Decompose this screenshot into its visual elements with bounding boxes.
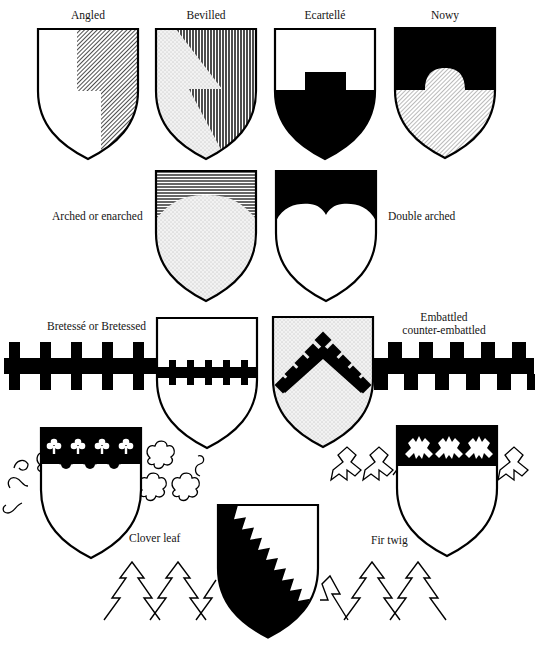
shield-clover-leaf bbox=[41, 428, 141, 558]
label-bevilled: Bevilled bbox=[176, 9, 236, 22]
embattled-band bbox=[374, 342, 535, 390]
label-bretesse: Bretessé or Bretessed bbox=[47, 320, 146, 333]
clover-leaf-outlines-right bbox=[139, 441, 204, 500]
shield-ecartelle bbox=[275, 29, 375, 159]
label-fir-twig: Fir twig bbox=[371, 534, 408, 547]
shield-angled bbox=[38, 29, 138, 159]
shield-fir-twig-chief bbox=[397, 426, 497, 556]
label-ecartelle: Ecartellé bbox=[290, 9, 360, 22]
label-embattled-line1: Embattled bbox=[384, 311, 504, 324]
label-embattled-line2: counter-embattled bbox=[384, 324, 504, 337]
fir-tree-outlines-left bbox=[104, 562, 216, 620]
shield-embattled bbox=[273, 317, 373, 447]
fir-tree-outlines-right bbox=[320, 562, 446, 620]
label-angled: Angled bbox=[58, 9, 118, 22]
shield-nowy bbox=[395, 28, 495, 158]
shield-double-arched bbox=[276, 171, 376, 301]
bretesse-band bbox=[4, 342, 158, 390]
label-nowy: Nowy bbox=[415, 9, 475, 22]
shield-bevilled bbox=[156, 29, 256, 159]
label-arched: Arched or enarched bbox=[52, 210, 143, 223]
shield-bretesse bbox=[157, 318, 257, 448]
label-clover-leaf: Clover leaf bbox=[129, 532, 180, 545]
shield-fir-twig-bend bbox=[218, 505, 318, 638]
shield-arched bbox=[156, 171, 256, 301]
label-double-arched: Double arched bbox=[388, 210, 455, 223]
